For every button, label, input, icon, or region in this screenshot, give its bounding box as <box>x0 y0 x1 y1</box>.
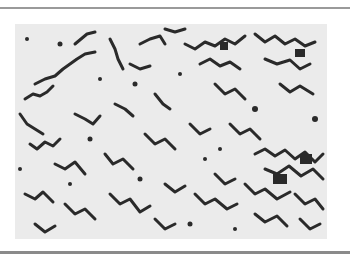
micrograph-image <box>15 24 327 239</box>
cell-cluster-pattern <box>15 24 327 239</box>
bottom-rule <box>0 251 350 254</box>
top-rule <box>0 7 350 9</box>
